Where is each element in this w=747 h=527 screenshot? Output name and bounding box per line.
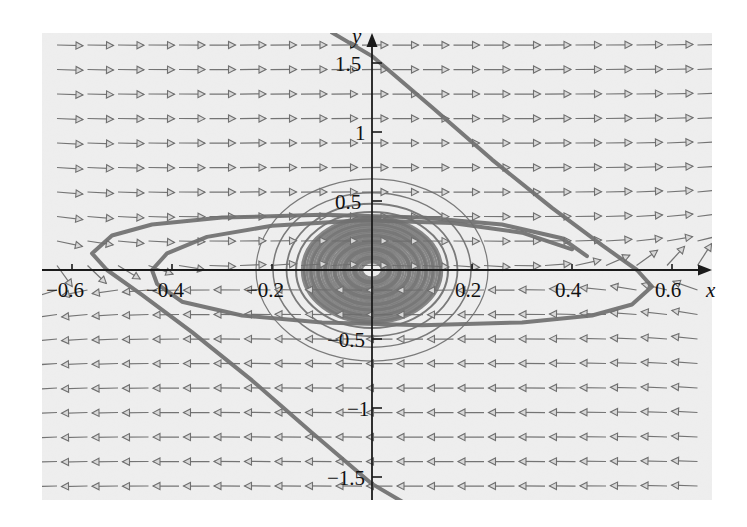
x-tick-label: −0.4 xyxy=(146,278,184,303)
x-tick-label: 0.2 xyxy=(455,278,481,303)
phase-portrait-canvas xyxy=(0,0,747,527)
paper-grain xyxy=(42,33,712,500)
x-tick-label: −0.2 xyxy=(246,278,284,303)
y-tick-label: −0.5 xyxy=(327,328,365,353)
y-axis-name: y xyxy=(352,24,361,49)
x-tick-label: −0.6 xyxy=(46,278,84,303)
y-tick-label: −1.5 xyxy=(327,466,365,491)
y-tick-label: 1 xyxy=(355,121,366,146)
y-tick-label: 1.5 xyxy=(335,52,361,77)
y-tick-label: 0.5 xyxy=(335,190,361,215)
y-tick-label: −1 xyxy=(347,397,369,422)
x-axis-name: x xyxy=(706,278,715,303)
x-tick-label: 0.6 xyxy=(655,278,681,303)
phase-portrait-figure: −0.6 −0.4 −0.2 0.2 0.4 0.6 x 1.5 1 0.5 −… xyxy=(0,0,747,527)
x-tick-label: 0.4 xyxy=(555,278,581,303)
